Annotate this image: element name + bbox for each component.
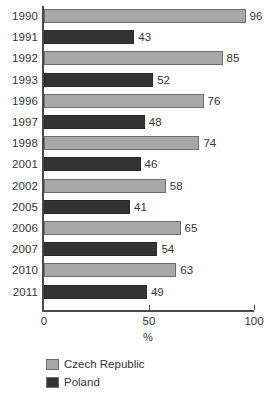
chart-legend: Czech RepublicPoland (46, 356, 246, 392)
bar-row: 201149 (0, 284, 267, 300)
bar-value-label: 58 (170, 178, 183, 194)
bar-category-label: 1998 (0, 135, 38, 151)
bar-category-label: 1992 (0, 50, 38, 66)
bar-value-label: 41 (134, 199, 147, 215)
legend-label: Czech Republic (64, 358, 145, 371)
bar (44, 94, 204, 108)
bar-value-label: 76 (208, 93, 221, 109)
bar (44, 179, 166, 193)
bar-category-label: 2001 (0, 156, 38, 172)
bar-value-label: 52 (157, 72, 170, 88)
bar-category-label: 2011 (0, 284, 38, 300)
bar (44, 221, 181, 235)
bar-value-label: 43 (138, 29, 151, 45)
bar-row: 200754 (0, 241, 267, 257)
bar-category-label: 1990 (0, 8, 38, 24)
bar (44, 9, 246, 23)
bar-category-label: 2010 (0, 262, 38, 278)
bar-category-label: 1993 (0, 72, 38, 88)
bar-row: 199352 (0, 72, 267, 88)
bar (44, 73, 153, 87)
bar-value-label: 65 (185, 220, 198, 236)
bar-category-label: 2006 (0, 220, 38, 236)
x-axis-tick (254, 305, 255, 310)
bar-value-label: 96 (250, 8, 263, 24)
x-axis-tick-label: 50 (129, 315, 169, 327)
bar-row: 199874 (0, 135, 267, 151)
bar (44, 136, 199, 150)
bar (44, 51, 223, 65)
bar (44, 30, 134, 44)
bar-category-label: 1996 (0, 93, 38, 109)
bar-category-label: 1991 (0, 29, 38, 45)
bar-value-label: 49 (151, 284, 164, 300)
bar-chart: 1990961991431992851993521996761997481998… (0, 0, 267, 395)
legend-swatch-icon (46, 359, 59, 370)
x-axis-line (42, 310, 254, 312)
bar-category-label: 2007 (0, 241, 38, 257)
bar (44, 263, 176, 277)
x-axis-tick (149, 305, 150, 310)
x-axis-title: % (42, 331, 254, 343)
bar (44, 285, 147, 299)
bar-value-label: 54 (161, 241, 174, 257)
legend-item: Poland (46, 374, 246, 390)
bar-value-label: 63 (180, 262, 193, 278)
legend-swatch-icon (46, 377, 59, 388)
legend-item: Czech Republic (46, 356, 246, 372)
bar-row: 199676 (0, 93, 267, 109)
bar (44, 242, 157, 256)
bar (44, 200, 130, 214)
bar-value-label: 85 (227, 50, 240, 66)
bar-value-label: 48 (149, 114, 162, 130)
bar-category-label: 2005 (0, 199, 38, 215)
bar (44, 157, 141, 171)
plot-area: 1990961991431992851993521996761997481998… (0, 0, 267, 312)
bar (44, 115, 145, 129)
bar-category-label: 1997 (0, 114, 38, 130)
bar-value-label: 74 (203, 135, 216, 151)
bar-row: 200258 (0, 178, 267, 194)
bar-row: 199096 (0, 8, 267, 24)
bar-category-label: 2002 (0, 178, 38, 194)
bar-row: 199748 (0, 114, 267, 130)
bar-row: 200541 (0, 199, 267, 215)
bar-row: 199143 (0, 29, 267, 45)
bar-row: 200146 (0, 156, 267, 172)
bar-row: 199285 (0, 50, 267, 66)
bar-row: 201063 (0, 262, 267, 278)
x-axis-tick-label: 100 (234, 315, 267, 327)
x-axis-tick-label: 0 (24, 315, 64, 327)
legend-label: Poland (64, 376, 100, 389)
bar-value-label: 46 (145, 156, 158, 172)
bar-row: 200665 (0, 220, 267, 236)
